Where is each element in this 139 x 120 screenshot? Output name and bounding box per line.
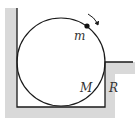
label-R: R — [108, 81, 118, 95]
physics-diagram: m M R — [0, 0, 139, 120]
bead-m — [84, 23, 89, 28]
label-m: m — [74, 29, 85, 43]
label-M: M — [79, 81, 93, 95]
wall-shading — [5, 8, 135, 118]
arrow-icon — [88, 14, 99, 25]
